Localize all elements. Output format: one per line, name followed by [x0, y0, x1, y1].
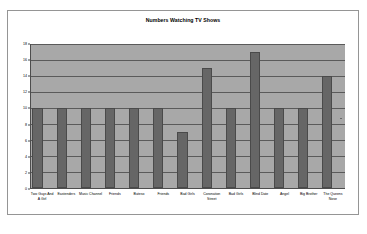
- x-axis-category-label: Big Brother: [297, 190, 321, 197]
- bar-slot: [103, 44, 127, 188]
- y-axis-tick-label: 12: [23, 90, 27, 94]
- plot-wrapper: 024681012141618 Two Guys And A GirlEaste…: [30, 44, 345, 189]
- bar-slot: [176, 44, 200, 188]
- y-axis-tick-label: 8: [25, 123, 27, 127]
- y-axis-tick-label: 14: [23, 74, 27, 78]
- bar[interactable]: [322, 76, 332, 188]
- bar[interactable]: [298, 108, 308, 188]
- x-axis-category-label: Bad Girls: [175, 190, 199, 197]
- x-axis-category-label: Blind Date: [248, 190, 272, 197]
- y-axis-tick-label: 2: [25, 171, 27, 175]
- x-axis-category-label: Angel: [272, 190, 296, 197]
- bar-slot: [79, 44, 103, 188]
- bar-slot: [55, 44, 79, 188]
- plot-area: [30, 44, 345, 189]
- bar[interactable]: [202, 68, 212, 188]
- y-axis-tick-label: 4: [25, 155, 27, 159]
- bar-slot: [200, 44, 224, 188]
- bar[interactable]: [177, 132, 187, 188]
- bar[interactable]: [274, 108, 284, 188]
- y-axis-tick-label: 16: [23, 58, 27, 62]
- x-axis-category-label: Coronation Street: [200, 190, 224, 201]
- bar-slot: [224, 44, 248, 188]
- y-axis-tick-label: 18: [23, 42, 27, 46]
- bar[interactable]: [153, 108, 163, 188]
- bar-slot: [273, 44, 297, 188]
- chart-frame: Numbers Watching TV Shows 02468101214161…: [7, 10, 359, 215]
- bar-slot: [297, 44, 321, 188]
- bar[interactable]: [57, 108, 67, 188]
- x-axis-category-label: Buteso: [127, 190, 151, 197]
- bar[interactable]: [81, 108, 91, 188]
- x-axis-category-label: Friends: [151, 190, 175, 197]
- y-axis-tick-label: 10: [23, 106, 27, 110]
- bar-series: [31, 44, 345, 188]
- y-axis-tick-label: 0: [25, 187, 27, 191]
- chart-title: Numbers Watching TV Shows: [8, 17, 358, 23]
- bar[interactable]: [32, 108, 42, 188]
- y-axis: 024681012141618: [10, 44, 30, 189]
- bar[interactable]: [129, 108, 139, 188]
- x-axis: Two Guys And A GirlEastendersMusic Chann…: [30, 190, 345, 201]
- x-axis-category-label: Two Guys And A Girl: [30, 190, 54, 201]
- y-axis-tick-label: 6: [25, 139, 27, 143]
- x-axis-category-label: Music Channel: [78, 190, 102, 197]
- bar-slot: [152, 44, 176, 188]
- bar[interactable]: [105, 108, 115, 188]
- bar[interactable]: [226, 108, 236, 188]
- bar-slot: [128, 44, 152, 188]
- bar-slot: [31, 44, 55, 188]
- x-axis-category-label: Eastenders: [54, 190, 78, 197]
- bar-slot: [321, 44, 345, 188]
- x-axis-category-label: Bad Girls: [224, 190, 248, 197]
- x-axis-category-label: The Queens Nose: [321, 190, 345, 201]
- x-axis-category-label: Friends: [103, 190, 127, 197]
- bar-slot: [248, 44, 272, 188]
- bar[interactable]: [250, 52, 260, 188]
